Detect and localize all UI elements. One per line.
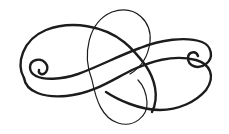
flourish-canvas <box>0 0 229 134</box>
lower-ribbon-stroke <box>24 58 211 110</box>
left-spiral-stroke <box>30 60 47 76</box>
flourish-ornament-icon <box>0 0 229 134</box>
